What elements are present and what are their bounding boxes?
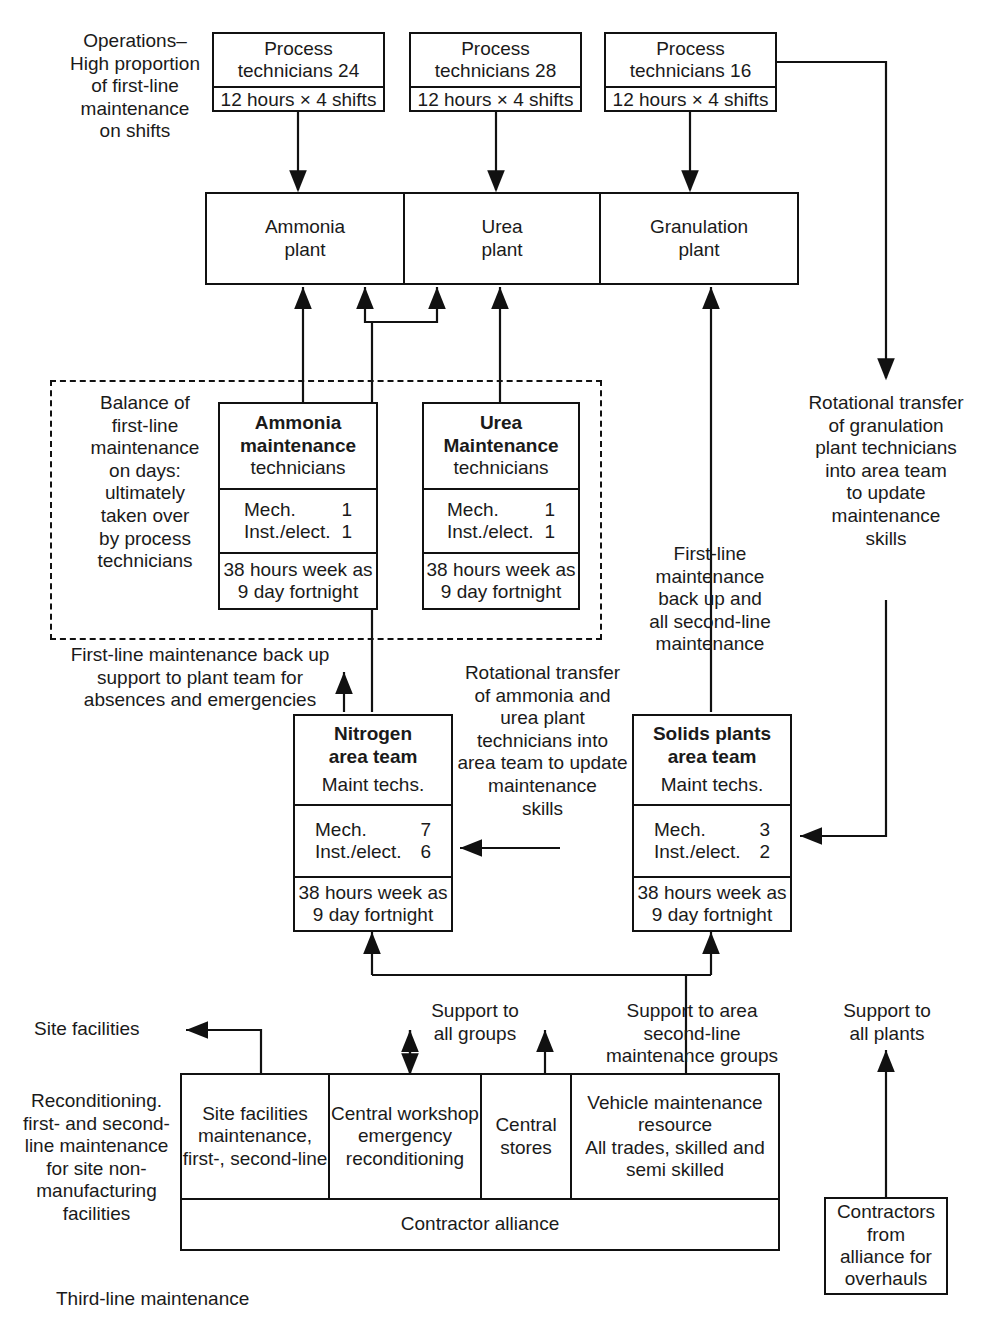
diagram-caption: Third-line maintenance <box>56 1288 356 1311</box>
nitrogen-area-team-hours: 38 hours week as 9 day fortnight <box>295 876 451 930</box>
process-tech-2-hours: 12 hours × 4 shifts <box>411 86 580 112</box>
urea-maintenance-team-box[interactable]: Urea Maintenance technicians Mech. 1 Ins… <box>422 402 580 610</box>
plant-urea[interactable]: Urea plant <box>403 194 599 283</box>
backup-support-note: First-line maintenance back up support t… <box>56 644 344 712</box>
process-tech-3-hours: 12 hours × 4 shifts <box>606 86 775 112</box>
plant-ammonia[interactable]: Ammonia plant <box>207 194 403 283</box>
first-line-balance-note: Balance of first-line maintenance on day… <box>75 392 215 573</box>
urea-maintenance-hours: 38 hours week as 9 day fortnight <box>424 552 578 608</box>
solids-area-team-hours: 38 hours week as 9 day fortnight <box>634 876 790 930</box>
diagram-canvas: Operations– High proportion of first-lin… <box>0 0 986 1341</box>
ammonia-maintenance-team-box[interactable]: Ammonia maintenance technicians Mech. 1 … <box>218 402 378 610</box>
nitrogen-area-team-title: Nitrogen area team Maint techs. <box>295 716 451 804</box>
contractors-from-alliance-box[interactable]: Contractors from alliance for overhauls <box>824 1197 948 1295</box>
ammonia-maintenance-title: Ammonia maintenance technicians <box>220 404 376 488</box>
solids-plants-area-team-box[interactable]: Solids plants area team Maint techs. Mec… <box>632 714 792 932</box>
support-all-plants-note: Support to all plants <box>812 1000 962 1045</box>
plant-row: Ammonia plant Urea plant Granulation pla… <box>205 192 799 285</box>
nitrogen-area-team-box[interactable]: Nitrogen area team Maint techs. Mech. 7 … <box>293 714 453 932</box>
granulation-rotation-note: Rotational transfer of granulation plant… <box>792 392 980 550</box>
third-line-cell-site-facilities[interactable]: Site facilities maintenance, first-, sec… <box>182 1075 328 1198</box>
process-technicians-box-2[interactable]: Process technicians 28 12 hours × 4 shif… <box>409 32 582 112</box>
process-tech-3-title: Process technicians 16 <box>606 34 775 86</box>
contractor-alliance-footer[interactable]: Contractor alliance <box>182 1198 778 1249</box>
solids-area-team-title: Solids plants area team Maint techs. <box>634 716 790 804</box>
process-technicians-box-1[interactable]: Process technicians 24 12 hours × 4 shif… <box>212 32 385 112</box>
third-line-services-row: Site facilities maintenance, first-, sec… <box>182 1075 778 1198</box>
process-technicians-box-3[interactable]: Process technicians 16 12 hours × 4 shif… <box>604 32 777 112</box>
site-facilities-label: Site facilities <box>34 1018 184 1041</box>
urea-maintenance-headcount: Mech. 1 Inst./elect. 1 <box>424 488 578 552</box>
process-tech-2-title: Process technicians 28 <box>411 34 580 86</box>
ammonia-maintenance-headcount: Mech. 1 Inst./elect. 1 <box>220 488 376 552</box>
second-line-maintenance-note: First-line maintenance back up and all s… <box>620 543 800 656</box>
process-tech-1-hours: 12 hours × 4 shifts <box>214 86 383 112</box>
operations-note-line-2: High proportion <box>60 53 210 76</box>
urea-maintenance-title: Urea Maintenance technicians <box>424 404 578 488</box>
support-area-second-line-note: Support to area second-line maintenance … <box>592 1000 792 1068</box>
operations-note-line-4: maintenance <box>60 98 210 121</box>
nitrogen-area-team-headcount: Mech. 7 Inst./elect. 6 <box>295 804 451 876</box>
ammonia-urea-rotation-note: Rotational transfer of ammonia and urea … <box>455 662 630 820</box>
operations-note-line-1: Operations– <box>60 30 210 53</box>
operations-note-line-3: of first-line <box>60 75 210 98</box>
reconditioning-note: Reconditioning. first- and second- line … <box>14 1090 179 1226</box>
third-line-cell-central-workshop[interactable]: Central workshop emergency reconditionin… <box>328 1075 480 1198</box>
operations-note-line-5: on shifts <box>60 120 210 143</box>
support-all-groups-note: Support to all groups <box>405 1000 545 1045</box>
process-tech-1-title: Process technicians 24 <box>214 34 383 86</box>
operations-note: Operations– High proportion of first-lin… <box>60 30 210 143</box>
ammonia-maintenance-hours: 38 hours week as 9 day fortnight <box>220 552 376 608</box>
third-line-services-box: Site facilities maintenance, first-, sec… <box>180 1073 780 1251</box>
third-line-cell-vehicle-maintenance[interactable]: Vehicle maintenance resource All trades,… <box>570 1075 778 1198</box>
plant-granulation[interactable]: Granulation plant <box>599 194 797 283</box>
solids-area-team-headcount: Mech. 3 Inst./elect. 2 <box>634 804 790 876</box>
third-line-cell-central-stores[interactable]: Central stores <box>480 1075 570 1198</box>
